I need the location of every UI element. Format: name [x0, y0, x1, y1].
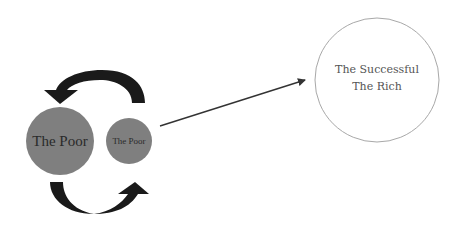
bottom-cycle-arrow-body [50, 182, 138, 214]
poor-large-label: The Poor [32, 133, 87, 149]
node-poor-small: The Poor [106, 118, 152, 164]
top-cycle-arrowhead [44, 90, 78, 104]
cycle-diagram: The Poor The Poor The Successful The Ric… [0, 0, 463, 236]
bottom-cycle-arrowhead [118, 182, 149, 194]
successful-label: The Successful [335, 63, 419, 76]
node-poor-large: The Poor [26, 107, 94, 175]
poor-small-label: The Poor [112, 136, 145, 146]
progress-arrow [160, 80, 305, 126]
top-cycle-arrow [44, 70, 145, 104]
top-cycle-arrow-body [56, 70, 145, 103]
rich-label: The Rich [352, 80, 401, 93]
node-successful-rich: The Successful The Rich [315, 18, 439, 142]
bottom-cycle-arrow [50, 182, 149, 214]
